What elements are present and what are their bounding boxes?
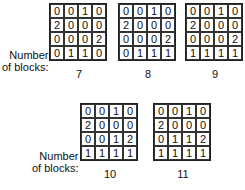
grid-cell: 0 <box>64 32 78 46</box>
grid-cell: 2 <box>154 118 168 132</box>
grid-cell: 0 <box>200 18 214 32</box>
block-count: 8 <box>118 68 178 80</box>
grid-cell: 0 <box>200 32 214 46</box>
label-line-1: Number <box>2 49 48 61</box>
grid-cell: 1 <box>182 132 196 146</box>
grid-cell: 0 <box>92 18 106 32</box>
grid-cell: 0 <box>81 104 95 118</box>
grid-cell: 1 <box>168 132 182 146</box>
grid-cell: 0 <box>228 18 242 32</box>
grid-cell: 1 <box>81 146 95 160</box>
grid-cell: 0 <box>119 46 133 60</box>
grid-cell: 1 <box>168 146 182 160</box>
grid-cell: 0 <box>95 104 109 118</box>
grid-cell: 0 <box>50 32 64 46</box>
grid-cell: 1 <box>147 46 161 60</box>
grid-cell: 0 <box>154 132 168 146</box>
label-line-2: of blocks: <box>2 61 48 73</box>
grid-cell: 0 <box>200 4 214 18</box>
grid-cell: 0 <box>109 118 123 132</box>
grid-cell: 2 <box>196 132 210 146</box>
grid-cell: 0 <box>186 32 200 46</box>
grid-cell: 1 <box>133 46 147 60</box>
grid-cell: 0 <box>50 46 64 60</box>
block-count: 11 <box>153 168 213 180</box>
grid-cell: 1 <box>161 46 175 60</box>
grid-cell: 1 <box>147 4 161 18</box>
grid-cell: 0 <box>78 18 92 32</box>
grid-cell: 0 <box>133 32 147 46</box>
block-grid: 0010200000121111 <box>80 103 138 161</box>
grid-cell: 2 <box>161 32 175 46</box>
grid-cell: 0 <box>133 18 147 32</box>
grid-cell: 0 <box>214 18 228 32</box>
grid-cell: 1 <box>95 146 109 160</box>
grid-cell: 0 <box>154 104 168 118</box>
grid-cell: 0 <box>81 132 95 146</box>
block-grid: 0010200001121111 <box>153 103 211 161</box>
grid-cell: 0 <box>133 4 147 18</box>
grid-cell: 1 <box>182 146 196 160</box>
block-count: 10 <box>80 168 140 180</box>
grid-cell: 0 <box>92 46 106 60</box>
block-grid: 0010200000021111 <box>185 3 243 61</box>
grid-cell: 1 <box>228 46 242 60</box>
block-grid: 0010200000020111 <box>118 3 176 61</box>
grid-cell: 1 <box>182 104 196 118</box>
grid-cell: 2 <box>186 18 200 32</box>
grid-cell: 2 <box>119 18 133 32</box>
grid-cell: 0 <box>161 4 175 18</box>
grid-cell: 0 <box>182 118 196 132</box>
grid-cell: 1 <box>109 146 123 160</box>
grid-cell: 1 <box>196 146 210 160</box>
grid-cell: 1 <box>200 46 214 60</box>
block-grid: 0010200000020110 <box>49 3 107 61</box>
grid-cell: 2 <box>123 132 137 146</box>
grid-cell: 2 <box>81 118 95 132</box>
grid-cell: 0 <box>147 32 161 46</box>
row-label-bottom: Number of blocks: <box>32 150 78 174</box>
grid-cell: 1 <box>64 46 78 60</box>
grid-cell: 0 <box>228 4 242 18</box>
grid-cell: 1 <box>78 4 92 18</box>
grid-cell: 0 <box>123 104 137 118</box>
grid-cell: 0 <box>50 4 64 18</box>
grid-cell: 1 <box>78 46 92 60</box>
grid-cell: 0 <box>92 4 106 18</box>
grid-cell: 0 <box>161 18 175 32</box>
grid-cell: 2 <box>228 32 242 46</box>
grid-cell: 0 <box>119 32 133 46</box>
block-count: 9 <box>185 68 245 80</box>
grid-cell: 0 <box>168 118 182 132</box>
grid-cell: 0 <box>186 4 200 18</box>
grid-cell: 0 <box>196 118 210 132</box>
grid-cell: 1 <box>109 132 123 146</box>
grid-cell: 1 <box>123 146 137 160</box>
grid-cell: 0 <box>123 118 137 132</box>
grid-cell: 0 <box>168 104 182 118</box>
grid-cell: 0 <box>147 18 161 32</box>
grid-cell: 0 <box>78 32 92 46</box>
label-line-1: Number <box>32 150 78 162</box>
grid-cell: 1 <box>214 46 228 60</box>
grid-cell: 0 <box>64 18 78 32</box>
grid-cell: 2 <box>92 32 106 46</box>
grid-cell: 0 <box>119 4 133 18</box>
grid-cell: 0 <box>196 104 210 118</box>
grid-cell: 2 <box>50 18 64 32</box>
grid-cell: 1 <box>214 4 228 18</box>
grid-cell: 0 <box>95 132 109 146</box>
grid-cell: 0 <box>95 118 109 132</box>
row-label-top: Number of blocks: <box>2 49 48 73</box>
grid-cell: 0 <box>214 32 228 46</box>
grid-cell: 0 <box>64 4 78 18</box>
grid-cell: 1 <box>154 146 168 160</box>
grid-cell: 1 <box>109 104 123 118</box>
grid-cell: 1 <box>186 46 200 60</box>
block-count: 7 <box>49 68 109 80</box>
label-line-2: of blocks: <box>32 162 78 174</box>
